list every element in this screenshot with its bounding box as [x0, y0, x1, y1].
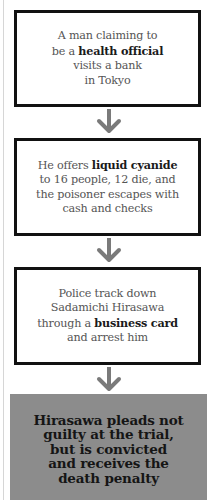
- outcome-box: Hirasawa pleads notguilty at the trial,b…: [10, 394, 207, 500]
- step-3-text: Police track downSadamichi Hirasawathrou…: [37, 287, 178, 346]
- left-edge-divider: [3, 0, 4, 500]
- step-1-text: A man claiming tobe a health officialvis…: [52, 29, 163, 88]
- down-arrow-icon: [96, 367, 122, 393]
- down-arrow-icon: [96, 238, 122, 264]
- step-2-text: He offers liquid cyanideto 16 people, 12…: [36, 158, 179, 217]
- down-arrow-icon: [96, 109, 122, 135]
- step-box-1: A man claiming tobe a health officialvis…: [14, 10, 201, 107]
- step-box-2: He offers liquid cyanideto 16 people, 12…: [14, 138, 201, 236]
- step-box-3: Police track downSadamichi Hirasawathrou…: [14, 267, 201, 365]
- outcome-text: Hirasawa pleads notguilty at the trial,b…: [33, 409, 183, 486]
